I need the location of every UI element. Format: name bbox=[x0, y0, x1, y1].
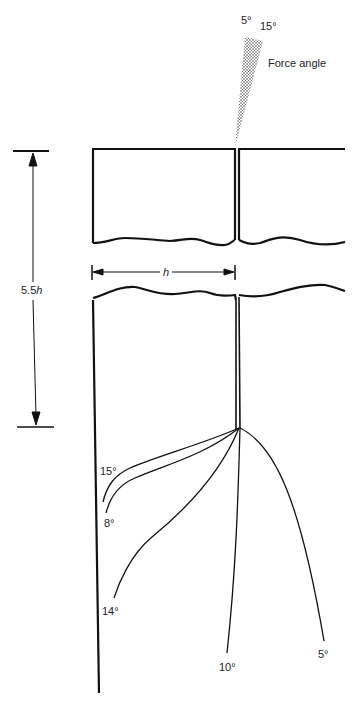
specimen-upper-section bbox=[93, 149, 345, 245]
crack-label-14: 14° bbox=[102, 605, 119, 617]
specimen-lower-section bbox=[93, 285, 345, 693]
height-label: 5.5h bbox=[21, 284, 42, 296]
force-angle-low-label: 5° bbox=[241, 14, 252, 26]
crack-path-diagram: h 5.5h Force angle 5° 15° 15° 8° 14° 10°… bbox=[0, 0, 354, 706]
force-angle-label: Force angle bbox=[268, 57, 326, 69]
crack-label-5: 5° bbox=[318, 648, 329, 660]
crack-label-15: 15° bbox=[100, 465, 117, 477]
crack-label-8: 8° bbox=[104, 517, 115, 529]
crack-path-10 bbox=[227, 428, 240, 653]
width-label: h bbox=[163, 266, 169, 278]
force-angle-high-label: 15° bbox=[260, 20, 277, 32]
crack-path-14 bbox=[114, 428, 239, 598]
force-angle-wedge bbox=[235, 37, 263, 147]
crack-label-10: 10° bbox=[219, 661, 236, 673]
crack-paths bbox=[103, 428, 324, 653]
crack-path-5 bbox=[240, 428, 324, 641]
